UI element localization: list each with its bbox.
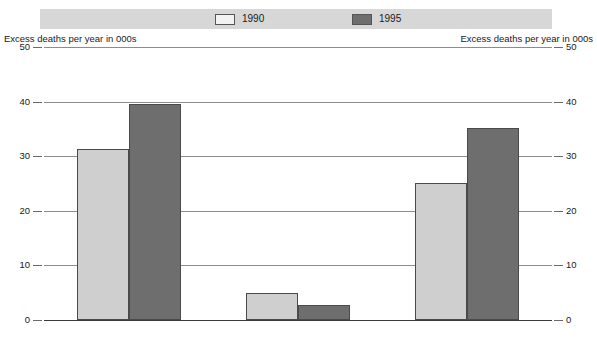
chart-plot-area: 50403020100 50403020100 All countriesCEE…: [44, 47, 552, 320]
legend-item-1995: 1995: [352, 9, 401, 29]
left-tick-label-20: 20: [19, 206, 30, 216]
left-tick-label-10: 10: [19, 260, 30, 270]
right-tick-label-30: 30: [566, 151, 577, 161]
gridline: [44, 102, 552, 103]
legend-label-1990: 1990: [242, 14, 264, 24]
gridline: [44, 47, 552, 48]
legend-item-1990: 1990: [215, 9, 264, 29]
right-tick-mark: [554, 265, 563, 266]
right-tick-label-40: 40: [566, 97, 577, 107]
left-tick-mark: [33, 211, 42, 212]
bar-1990-nis: [415, 183, 467, 320]
legend-swatch-icon-1990: [215, 14, 235, 25]
right-tick-mark: [554, 47, 563, 48]
gridline: [44, 320, 552, 321]
right-tick-label-10: 10: [566, 260, 577, 270]
bar-1995-all-countries: [129, 104, 181, 320]
right-tick-label-20: 20: [566, 206, 577, 216]
legend: 1990 1995: [40, 9, 552, 29]
bar-1995-ceec: [298, 305, 350, 320]
right-tick-label-0: 0: [566, 315, 571, 325]
bar-1990-all-countries: [77, 149, 129, 320]
legend-swatch-icon-1995: [352, 14, 372, 25]
right-tick-mark: [554, 156, 563, 157]
left-tick-label-0: 0: [25, 315, 30, 325]
right-tick-label-50: 50: [566, 42, 577, 52]
right-tick-mark: [554, 102, 563, 103]
left-tick-mark: [33, 47, 42, 48]
left-tick-mark: [33, 265, 42, 266]
left-tick-label-30: 30: [19, 151, 30, 161]
left-tick-mark: [33, 320, 42, 321]
right-tick-mark: [554, 320, 563, 321]
bar-1995-nis: [467, 128, 519, 320]
left-tick-mark: [33, 156, 42, 157]
left-tick-label-50: 50: [19, 42, 30, 52]
right-tick-mark: [554, 211, 563, 212]
left-tick-mark: [33, 102, 42, 103]
legend-label-1995: 1995: [379, 14, 401, 24]
bar-1990-ceec: [246, 293, 298, 320]
left-tick-label-40: 40: [19, 97, 30, 107]
